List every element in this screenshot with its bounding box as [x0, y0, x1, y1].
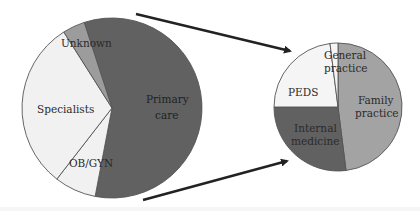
label-peds: PEDS [288, 86, 318, 98]
label-general-practice-line2: practice [324, 62, 368, 74]
label-ob-gyn: OB/GYN [69, 157, 113, 169]
label-internal-medicine: Internal [294, 122, 337, 134]
label-family-practice: Family [358, 94, 394, 106]
pie-breakdown-diagram: Unknown Specialists OB/GYN Primary care … [0, 0, 420, 211]
label-internal-medicine-line2: medicine [291, 135, 339, 147]
label-primary-care-line2: care [155, 109, 178, 121]
label-unknown: Unknown [61, 37, 112, 49]
label-specialists: Specialists [37, 103, 94, 115]
label-family-practice-line2: practice [355, 107, 399, 119]
bottom-band [0, 207, 420, 211]
label-general-practice: General [324, 49, 367, 61]
label-primary-care: Primary [146, 93, 189, 105]
